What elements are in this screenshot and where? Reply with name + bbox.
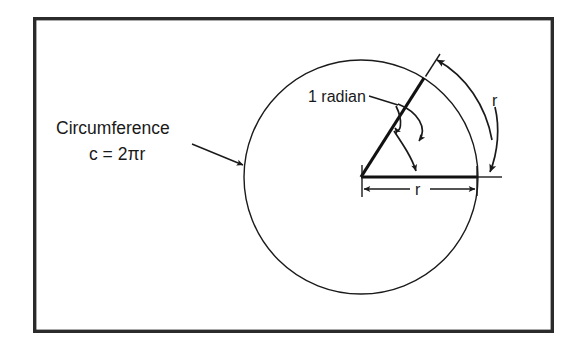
slanted-radius xyxy=(361,78,424,177)
radius-dimension-label: r xyxy=(415,181,421,198)
circumference-label: Circumference xyxy=(56,118,170,138)
figure-border xyxy=(35,19,553,332)
central-angle-arc xyxy=(394,131,416,171)
circumference-formula: c = 2πr xyxy=(89,144,146,164)
radian-label: 1 radian xyxy=(308,88,366,105)
radian-figure: Circumference c = 2πr 1 radian r r xyxy=(0,0,581,348)
arc-length-label: r xyxy=(492,92,498,109)
circumference-arrow xyxy=(192,144,243,165)
figure-canvas: Circumference c = 2πr 1 radian r r xyxy=(0,0,581,348)
arc-length-indicator-upper xyxy=(437,60,492,140)
radian-leader-line xyxy=(369,96,398,105)
radian-leader-curve xyxy=(398,104,422,141)
slanted-radius-extension-tick xyxy=(426,54,441,77)
